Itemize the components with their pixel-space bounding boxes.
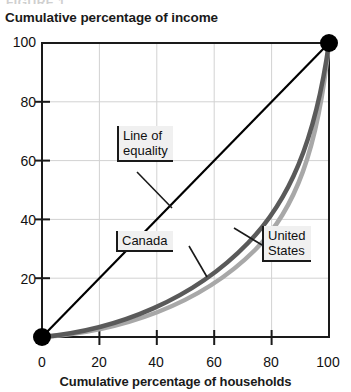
callout-line-of-equality: Line of equality (117, 126, 173, 162)
canada-leader (189, 246, 207, 277)
lorenz-curve-figure: FIGURE 1 Cumulative percentage of income… (0, 0, 351, 392)
xaxis-title: Cumulative percentage of households (0, 374, 351, 389)
callout-canada: Canada (116, 231, 173, 252)
plot-canvas (0, 0, 351, 392)
equality-leader (137, 172, 172, 208)
top-right-marker (320, 34, 338, 52)
callout-canada-line1: Canada (122, 233, 168, 248)
callout-equality-line2: equality (123, 143, 168, 158)
callout-us-line2: States (268, 243, 306, 258)
callout-equality-line1: Line of (123, 128, 168, 143)
callout-us-line1: United (268, 228, 306, 243)
callout-united-states: United States (262, 226, 311, 262)
origin-marker (33, 328, 51, 346)
